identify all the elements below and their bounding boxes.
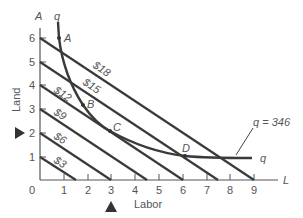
svg-text:3: 3 <box>29 103 35 115</box>
svg-text:$6: $6 <box>51 129 69 147</box>
point-a <box>57 36 61 40</box>
isoquant-label-end: q <box>260 152 267 164</box>
x-ticks <box>64 174 254 180</box>
svg-text:8: 8 <box>227 184 233 196</box>
x-axis-title: Labor <box>134 198 162 210</box>
isoquant-isocost-chart: A L 6 5 4 3 2 1 0 1 2 3 4 5 6 7 8 <box>0 0 303 218</box>
svg-text:6: 6 <box>180 184 186 196</box>
svg-text:6: 6 <box>29 32 35 44</box>
isoquant-annotation: q = 346 <box>253 116 291 128</box>
svg-text:$18: $18 <box>90 58 114 79</box>
y-tick-labels: 6 5 4 3 2 1 <box>29 32 35 163</box>
svg-text:1: 1 <box>61 184 67 196</box>
y-marker-triangle-icon <box>15 127 25 139</box>
y-axis-title: Land <box>10 88 22 112</box>
origin-label: 0 <box>29 184 35 196</box>
x-axis-symbol: L <box>283 174 289 186</box>
svg-text:1: 1 <box>29 151 35 163</box>
y-ticks <box>40 38 46 157</box>
point-c <box>108 129 112 133</box>
annotation-leader <box>236 128 253 155</box>
isocost-6 <box>40 133 111 180</box>
x-marker-triangle-icon <box>105 201 117 212</box>
point-b-label: B <box>87 98 94 110</box>
point-d-label: D <box>182 142 190 154</box>
point-a-label: A <box>63 32 71 44</box>
svg-text:2: 2 <box>29 127 35 139</box>
svg-text:3: 3 <box>108 184 114 196</box>
x-tick-labels: 1 2 3 4 5 6 7 8 9 <box>61 184 257 196</box>
y-axis-symbol: A <box>34 10 42 22</box>
svg-text:2: 2 <box>85 184 91 196</box>
isoquant-label-top: q <box>54 10 61 22</box>
point-c-label: C <box>113 121 121 133</box>
svg-text:$9: $9 <box>51 105 69 122</box>
point-b <box>81 103 85 107</box>
svg-text:5: 5 <box>29 56 35 68</box>
svg-text:4: 4 <box>29 79 35 91</box>
point-d <box>183 154 187 158</box>
svg-text:4: 4 <box>132 184 138 196</box>
svg-text:5: 5 <box>156 184 162 196</box>
svg-text:7: 7 <box>204 184 210 196</box>
svg-text:9: 9 <box>251 184 257 196</box>
svg-text:$3: $3 <box>51 153 69 171</box>
